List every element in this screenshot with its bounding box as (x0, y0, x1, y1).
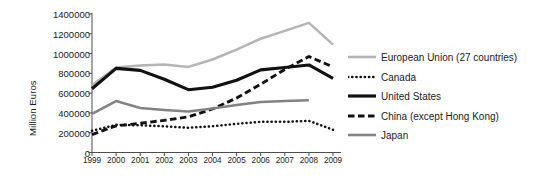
legend-item-european-union-27-countries[interactable]: European Union (27 countries) (348, 48, 548, 68)
legend-item-japan[interactable]: Japan (348, 126, 548, 146)
legend-label: Japan (381, 130, 408, 141)
legend-key-united-states (348, 91, 376, 102)
legend-key-japan (348, 130, 376, 141)
legend-item-united-states[interactable]: United States (348, 87, 548, 107)
chart-legend: European Union (27 countries)CanadaUnite… (348, 48, 548, 146)
legend-label: United States (381, 91, 441, 102)
legend-key-european-union (348, 52, 376, 63)
legend-item-china-except-hong-kong[interactable]: China (except Hong Kong) (348, 107, 548, 127)
series-line-canada (92, 121, 333, 131)
legend-key-china (348, 111, 376, 122)
legend-label: China (except Hong Kong) (381, 111, 499, 122)
chart-container: Million Euros 14000001200000100000080000… (0, 0, 551, 182)
legend-key-canada (348, 72, 376, 83)
legend-label: European Union (27 countries) (381, 52, 517, 63)
legend-item-canada[interactable]: Canada (348, 68, 548, 88)
series-line-european-union-27-countries (92, 23, 333, 85)
legend-label: Canada (381, 72, 416, 83)
series-line-united-states (92, 65, 333, 90)
